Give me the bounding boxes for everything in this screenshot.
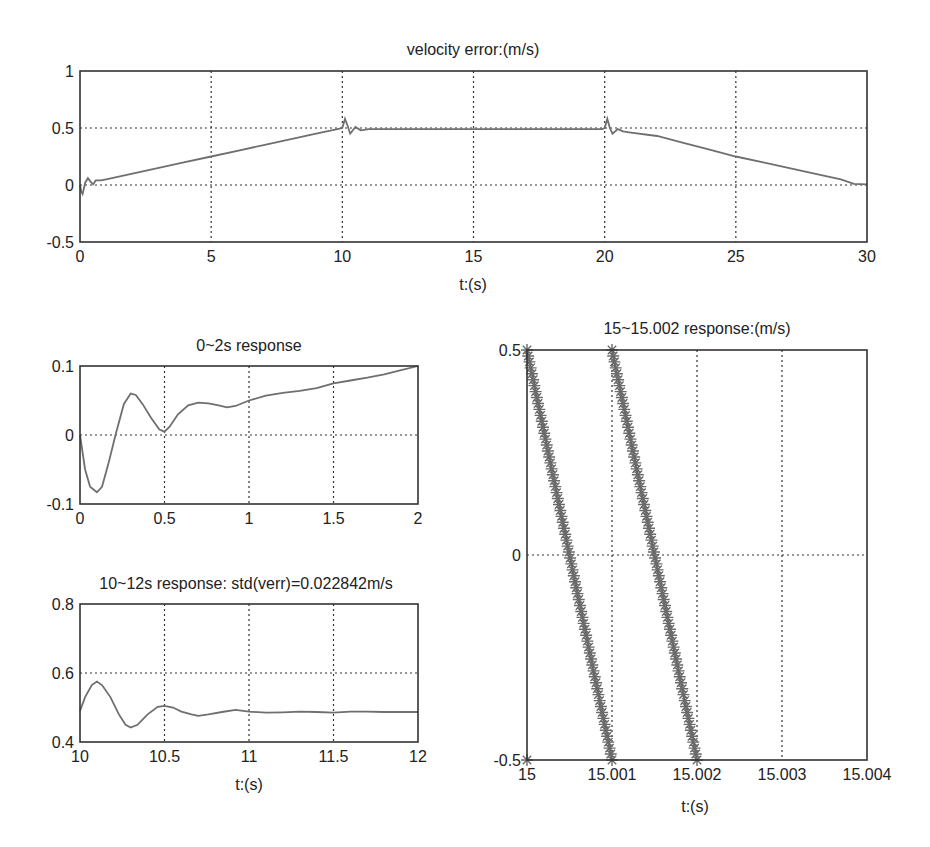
chart-title: 0~2s response (196, 337, 302, 354)
x-tick-label: 0 (76, 510, 85, 527)
y-tick-label: 0 (65, 177, 74, 194)
x-tick-label: 15.004 (843, 766, 892, 783)
y-tick-label: 1 (65, 63, 74, 80)
y-tick-labels: 0.40.60.8 (52, 596, 74, 751)
x-tick-label: 11 (241, 748, 258, 765)
x-axis-label: t:(s) (459, 276, 487, 293)
x-tick-label: 2 (414, 510, 423, 527)
y-tick-label: 0.1 (52, 358, 74, 375)
x-tick-label: 10 (71, 748, 89, 765)
panel-velocity-error: velocity error:(m/s) -0.500.51 051015202… (46, 41, 876, 293)
y-tick-label: 0.5 (52, 120, 74, 137)
panel-response-0-2s: 0~2s response -0.100.1 00.511.52 (46, 337, 422, 527)
x-tick-label: 1 (245, 510, 254, 527)
x-tick-labels: 1515.00115.00215.00315.004 (518, 766, 891, 783)
y-tick-label: -0.1 (46, 496, 74, 513)
gridlines (527, 350, 867, 760)
x-tick-label: 25 (727, 248, 745, 265)
y-tick-labels: -0.500.5 (493, 342, 521, 769)
y-tick-label: -0.5 (493, 752, 521, 769)
y-tick-label: -0.5 (46, 234, 74, 251)
x-tick-label: 0 (76, 248, 85, 265)
x-tick-label: 11.5 (319, 748, 349, 765)
panel-response-10-12s: 10~12s response: std(verr)=0.022842m/s 0… (52, 575, 427, 793)
x-tick-label: 5 (207, 248, 216, 265)
x-tick-labels: 1010.51111.512 (71, 748, 427, 765)
y-tick-labels: -0.500.51 (46, 63, 74, 251)
x-tick-label: 20 (596, 248, 614, 265)
x-tick-labels: 00.511.52 (76, 510, 423, 527)
gridlines (80, 366, 418, 504)
chart-title: 10~12s response: std(verr)=0.022842m/s (99, 575, 393, 592)
x-axis-label: t:(s) (235, 776, 263, 793)
x-tick-label: 12 (409, 748, 427, 765)
y-tick-label: 0.6 (52, 665, 74, 682)
figure: velocity error:(m/s) -0.500.51 051015202… (0, 0, 930, 847)
y-tick-label: 0.8 (52, 596, 74, 613)
x-axis-label: t:(s) (681, 798, 709, 815)
y-tick-label: 0 (65, 427, 74, 444)
chart-title: velocity error:(m/s) (407, 41, 539, 58)
x-tick-label: 10 (333, 248, 351, 265)
y-tick-label: 0.5 (499, 342, 521, 359)
x-tick-label: 10.5 (149, 748, 180, 765)
x-tick-label: 0.5 (153, 510, 175, 527)
line-series (80, 366, 418, 492)
y-tick-labels: -0.100.1 (46, 358, 74, 513)
gridlines (80, 71, 867, 242)
x-tick-label: 15.002 (673, 766, 722, 783)
chart-title: 15~15.002 response:(m/s) (603, 320, 790, 337)
x-tick-label: 15 (518, 766, 536, 783)
x-tick-label: 1.5 (322, 510, 344, 527)
x-tick-label: 15.003 (758, 766, 807, 783)
x-tick-label: 15 (465, 248, 483, 265)
panel-response-15-15002: 15~15.002 response:(m/s) -0.500.5 1515.0… (493, 320, 891, 815)
y-tick-label: 0 (512, 547, 521, 564)
data-series (80, 366, 418, 492)
x-tick-label: 15.001 (588, 766, 637, 783)
x-tick-label: 30 (858, 248, 876, 265)
x-tick-labels: 051015202530 (76, 248, 876, 265)
gridlines (80, 604, 418, 742)
